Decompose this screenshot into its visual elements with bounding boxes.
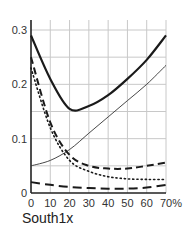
x-tick-label: 70% — [160, 197, 182, 209]
y-tick-labels: 00.10.20.3 — [12, 24, 27, 199]
x-tick-label: 40 — [102, 197, 114, 209]
line-chart: 00.10.20.3 010203040506070% South1x — [0, 0, 194, 235]
x-tick-label: 60 — [141, 197, 153, 209]
y-tick-label: 0.1 — [12, 133, 27, 145]
series-thick-solid — [31, 35, 166, 110]
series-medium-dashed — [31, 57, 166, 169]
x-tick-label: 50 — [121, 197, 133, 209]
x-tick-label: 30 — [83, 197, 95, 209]
x-tick-label: 10 — [44, 197, 56, 209]
y-tick-label: 0.3 — [12, 24, 27, 36]
y-tick-label: 0.2 — [12, 78, 27, 90]
x-tick-label: 0 — [28, 197, 34, 209]
x-tick-labels: 010203040506070% — [28, 197, 182, 209]
series-long-dashed — [31, 182, 166, 189]
y-tick-label: 0 — [21, 187, 27, 199]
x-axis-label: South1x — [22, 210, 73, 226]
x-tick-label: 20 — [63, 197, 75, 209]
